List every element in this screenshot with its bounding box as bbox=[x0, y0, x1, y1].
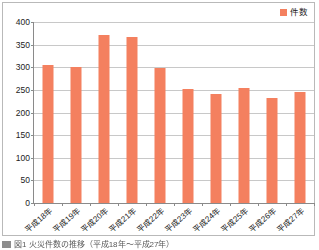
legend-item-label: 件数 bbox=[290, 8, 308, 17]
x-axis-tick bbox=[230, 203, 231, 206]
x-axis-tick bbox=[118, 203, 119, 206]
bar-slot: 平成24年 bbox=[202, 22, 230, 203]
x-axis-tick-label: 平成21年 bbox=[108, 206, 138, 235]
bar[interactable] bbox=[295, 92, 306, 203]
x-axis-tick-label: 平成19年 bbox=[52, 206, 82, 235]
y-axis-tick-label: 150 bbox=[16, 131, 30, 140]
x-axis-tick bbox=[286, 203, 287, 206]
y-axis-tick-label: 350 bbox=[16, 40, 30, 49]
x-axis-tick bbox=[314, 203, 315, 206]
x-axis-tick-label: 平成27年 bbox=[276, 206, 306, 235]
figure-caption-text: 図1 火災件数の推移（平成18年～平成27年） bbox=[14, 240, 174, 249]
bar-slot: 平成20年 bbox=[90, 22, 118, 203]
bar[interactable] bbox=[155, 68, 166, 203]
bar-slot: 平成23年 bbox=[174, 22, 202, 203]
bar-slot: 平成25年 bbox=[230, 22, 258, 203]
x-axis-tick bbox=[146, 203, 147, 206]
x-axis-tick-label: 平成20年 bbox=[80, 206, 110, 235]
x-axis-tick bbox=[90, 203, 91, 206]
x-axis-tick bbox=[258, 203, 259, 206]
bar-slot: 平成21年 bbox=[118, 22, 146, 203]
y-axis-tick-label: 250 bbox=[16, 85, 30, 94]
bar[interactable] bbox=[211, 94, 222, 204]
x-axis-tick-label: 平成24年 bbox=[192, 206, 222, 235]
figure-marker-icon bbox=[2, 241, 11, 248]
y-axis-tick-label: 100 bbox=[16, 153, 30, 162]
x-axis-tick-label: 平成26年 bbox=[248, 206, 278, 235]
bar[interactable] bbox=[239, 88, 250, 203]
y-axis-tick-label: 300 bbox=[16, 63, 30, 72]
y-axis-tick-label: 50 bbox=[21, 176, 30, 185]
x-axis-tick-label: 平成23年 bbox=[164, 206, 194, 235]
bar[interactable] bbox=[43, 65, 54, 203]
square-swatch-icon bbox=[280, 9, 287, 16]
figure-caption: 図1 火災件数の推移（平成18年～平成27年） bbox=[2, 239, 317, 249]
bar-slot: 平成22年 bbox=[146, 22, 174, 203]
bar-slot: 平成18年 bbox=[34, 22, 62, 203]
bar[interactable] bbox=[127, 37, 138, 203]
chart-frame: 件数 400350300250200150100500 平成18年平成19年平成… bbox=[2, 2, 315, 236]
x-axis-tick-label: 平成18年 bbox=[24, 206, 54, 235]
x-axis-tick bbox=[62, 203, 63, 206]
bar[interactable] bbox=[183, 89, 194, 203]
bar[interactable] bbox=[99, 35, 110, 203]
x-axis-tick-label: 平成25年 bbox=[220, 206, 250, 235]
y-axis-tick-label: 400 bbox=[16, 18, 30, 27]
x-axis-tick bbox=[34, 203, 35, 206]
y-axis-tick-label: 200 bbox=[16, 108, 30, 117]
y-axis-tick-label: 0 bbox=[25, 199, 30, 208]
bar-slot: 平成27年 bbox=[286, 22, 314, 203]
bar[interactable] bbox=[267, 98, 278, 203]
plot-area: 400350300250200150100500 平成18年平成19年平成20年… bbox=[33, 22, 314, 204]
chart-legend: 件数 bbox=[280, 7, 308, 18]
figure-container: 件数 400350300250200150100500 平成18年平成19年平成… bbox=[0, 0, 319, 250]
bars-group: 平成18年平成19年平成20年平成21年平成22年平成23年平成24年平成25年… bbox=[34, 22, 314, 203]
x-axis-tick bbox=[202, 203, 203, 206]
x-axis-tick-label: 平成22年 bbox=[136, 206, 166, 235]
bar-slot: 平成19年 bbox=[62, 22, 90, 203]
x-axis-tick bbox=[174, 203, 175, 206]
bar[interactable] bbox=[71, 67, 82, 203]
bar-slot: 平成26年 bbox=[258, 22, 286, 203]
